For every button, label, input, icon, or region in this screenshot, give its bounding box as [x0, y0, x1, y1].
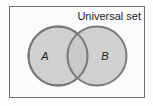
set-a-label: A: [40, 50, 48, 62]
venn-diagram: Universal set A B: [0, 0, 153, 106]
set-b-circle: [68, 27, 127, 86]
set-b-label: B: [101, 50, 108, 62]
universal-set-label: Universal set: [77, 10, 141, 22]
